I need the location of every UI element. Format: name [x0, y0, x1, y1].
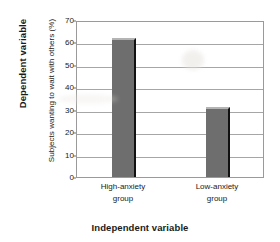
y-axis-tick-mark — [73, 21, 76, 22]
y-axis-tick-mark — [73, 178, 76, 179]
y-axis-tick-mark — [73, 43, 76, 44]
gridline — [77, 89, 263, 90]
y-axis-tick-mark — [73, 110, 76, 111]
y-axis-tick-mark — [73, 133, 76, 134]
x-axis-category-label-line: Low-anxiety — [170, 181, 264, 193]
gridline — [77, 112, 263, 113]
x-axis-category-label: High-anxietygroup — [76, 181, 170, 204]
bar-chart-figure: Dependent variable Subjects wanting to w… — [0, 0, 280, 242]
y-axis-tick-mark — [73, 88, 76, 89]
dependent-variable-axis-title: Dependent variable — [17, 0, 28, 134]
x-axis-category-label-line: group — [170, 193, 264, 205]
gridline — [77, 67, 263, 68]
gridline — [77, 44, 263, 45]
bar — [206, 107, 230, 177]
plot-area — [76, 21, 264, 178]
gridline — [77, 134, 263, 135]
y-axis-tick-mark — [73, 155, 76, 156]
bar — [112, 38, 136, 177]
gridline — [77, 157, 263, 158]
x-axis-category-label-line: High-anxiety — [76, 181, 170, 193]
y-axis-tick-mark — [73, 65, 76, 66]
y-axis-tick-labels: 706050403020100 — [50, 21, 74, 178]
independent-variable-axis-title: Independent variable — [0, 222, 280, 233]
x-axis-category-label-line: group — [76, 193, 170, 205]
x-axis-category-labels: High-anxietygroupLow-anxietygroup — [76, 181, 264, 215]
x-axis-category-label: Low-anxietygroup — [170, 181, 264, 204]
